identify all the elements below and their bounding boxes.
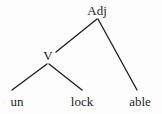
tree-leaf-able: able — [129, 95, 151, 108]
morphology-tree-figure: Adj V un lock able — [0, 0, 162, 114]
edge-v-to-lock — [49, 64, 82, 90]
edge-adj-to-v — [56, 19, 97, 52]
tree-leaf-lock: lock — [71, 95, 93, 108]
tree-node-v: V — [43, 49, 52, 62]
tree-leaf-un: un — [11, 95, 24, 108]
edge-v-to-un — [12, 64, 47, 90]
edge-adj-to-able — [98, 19, 137, 90]
tree-node-adj: Adj — [87, 4, 107, 17]
